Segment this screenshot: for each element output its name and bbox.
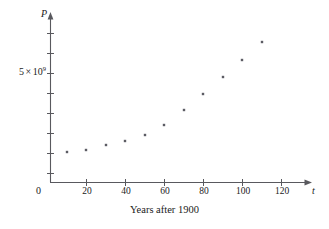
x-tick-label-20: 20	[72, 187, 102, 197]
x-tick-label-100: 100	[228, 187, 258, 197]
data-point	[183, 109, 185, 111]
data-point	[163, 124, 165, 126]
data-point	[105, 144, 107, 146]
x-tick-label-120: 120	[267, 187, 297, 197]
data-point	[261, 41, 263, 43]
y-axis-arrow-icon	[48, 12, 54, 20]
y-tick-exponent: 9	[43, 65, 46, 72]
x-tick-label-80: 80	[189, 187, 219, 197]
y-axis-label: P	[41, 9, 47, 19]
data-point	[66, 151, 68, 153]
data-point	[222, 76, 224, 78]
x-axis-label: t	[312, 186, 315, 196]
origin-tick-label: 0	[36, 186, 41, 196]
x-tick-label-40: 40	[111, 187, 141, 197]
x-axis-arrow-icon	[305, 180, 313, 186]
data-point	[144, 134, 146, 136]
data-point	[241, 59, 243, 61]
data-point	[85, 149, 87, 151]
y-tick-base: 10	[33, 66, 43, 77]
data-point	[124, 140, 126, 142]
data-point-series	[66, 41, 263, 153]
x-tick-label-60: 60	[150, 187, 180, 197]
chart-caption: Years after 1900	[0, 205, 329, 216]
data-point	[202, 93, 204, 95]
y-tick-label-5e9: 5×109	[19, 67, 46, 77]
scatter-plot-figure: P t 0 5×109 20406080100120 Years after 1…	[0, 0, 329, 229]
multiplication-sign-icon: ×	[24, 66, 33, 77]
